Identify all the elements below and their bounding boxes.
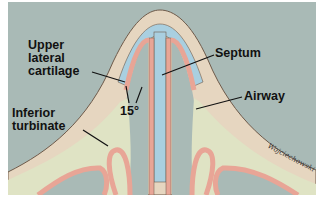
nasal-anatomy-diagram: Upper lateral cartilage Septum Airway In… bbox=[8, 2, 316, 195]
label-septum: Septum bbox=[215, 47, 261, 60]
label-angle: 15° bbox=[120, 105, 139, 118]
label-airway: Airway bbox=[244, 90, 285, 103]
label-upper-lateral-cartilage: Upper lateral cartilage bbox=[28, 39, 79, 78]
label-inferior-turbinate: Inferior turbinate bbox=[12, 107, 65, 133]
label-line: turbinate bbox=[12, 120, 65, 133]
label-line: cartilage bbox=[28, 65, 79, 78]
